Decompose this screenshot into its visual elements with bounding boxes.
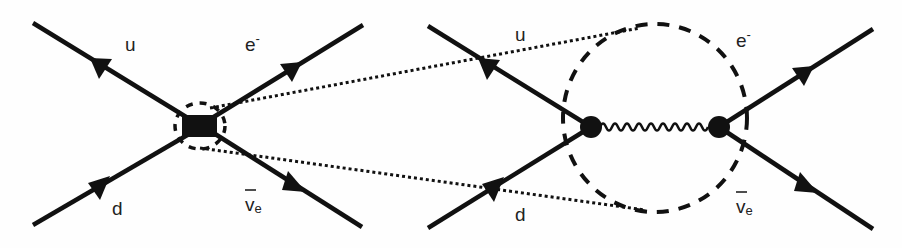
arrow-icon <box>482 177 504 202</box>
feynman-diagram-canvas: u d e- ve <box>0 0 902 248</box>
vertex-dot-right <box>708 116 730 138</box>
arrow-icon <box>282 171 306 192</box>
svg-text:ve: ve <box>736 196 753 218</box>
label-electron: e- <box>245 31 260 55</box>
arrow-icon <box>794 172 818 193</box>
label-u: u <box>125 34 136 55</box>
zoom-line-top <box>210 28 640 108</box>
label-antineutrino: ve <box>736 192 753 218</box>
contact-vertex-square <box>182 115 217 137</box>
left-diagram: u d e- ve <box>33 23 363 227</box>
w-boson-propagator <box>600 124 708 131</box>
d-quark-line-right <box>428 127 591 228</box>
u-quark-line-left <box>33 23 196 123</box>
label-antineutrino: ve <box>245 190 262 216</box>
label-u: u <box>515 24 526 45</box>
label-electron: e- <box>736 27 751 51</box>
label-d: d <box>112 198 123 219</box>
vertex-dot-left <box>580 116 602 138</box>
antineutrino-line-left <box>212 132 362 227</box>
arrow-icon <box>88 176 110 200</box>
label-d: d <box>515 204 526 225</box>
svg-text:ve: ve <box>245 194 262 216</box>
zoom-line-bottom <box>200 148 645 210</box>
